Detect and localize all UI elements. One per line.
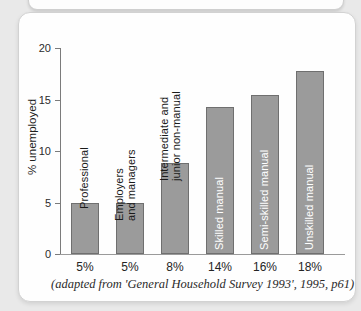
y-tick-label: 15 bbox=[23, 95, 51, 106]
bar-label-line-2: and managers bbox=[125, 149, 137, 221]
bar-label-line-1: Professional bbox=[78, 147, 90, 209]
x-tick-label: 5% bbox=[62, 260, 108, 274]
bar-category-label: Employersand managers bbox=[113, 149, 137, 221]
bar-category-label: Skilled manual bbox=[213, 177, 225, 250]
x-tick-label: 8% bbox=[152, 260, 198, 274]
x-axis-line bbox=[60, 254, 345, 255]
y-tick-label: 20 bbox=[23, 43, 51, 54]
y-tick-mark bbox=[55, 203, 60, 204]
bar-label-line-1: Semi-skilled manual bbox=[258, 150, 270, 250]
y-tick-label: 10 bbox=[23, 146, 51, 157]
y-tick-label: 5 bbox=[23, 198, 51, 209]
x-tick-label: 16% bbox=[242, 260, 288, 274]
y-tick-label: 0 bbox=[23, 249, 51, 260]
bar-category-label: Unskilled manual bbox=[303, 165, 315, 250]
bar-category-label: Semi-skilled manual bbox=[258, 150, 270, 250]
x-tick-label: 14% bbox=[197, 260, 243, 274]
background-card-partial bbox=[28, 0, 344, 10]
bar-label-line-1: Intermediate and bbox=[158, 97, 170, 181]
chart-card: % unemployed 05101520 ProfessionalEmploy… bbox=[18, 12, 356, 302]
bar-label-line-2: junior non-manual bbox=[170, 92, 182, 182]
x-tick-label: 18% bbox=[287, 260, 333, 274]
bar-chart: % unemployed 05101520 ProfessionalEmploy… bbox=[19, 13, 355, 301]
bar-label-line-1: Employers bbox=[113, 168, 125, 221]
y-tick-mark bbox=[55, 100, 60, 101]
bar-label-line-1: Skilled manual bbox=[213, 177, 225, 250]
bar-label-line-1: Unskilled manual bbox=[303, 165, 315, 250]
x-tick-label: 5% bbox=[107, 260, 153, 274]
y-tick-mark bbox=[55, 48, 60, 49]
y-tick-mark bbox=[55, 254, 60, 255]
bar-category-label: Professional bbox=[78, 147, 90, 209]
y-axis-line bbox=[60, 48, 61, 254]
bar[interactable] bbox=[71, 203, 99, 255]
bar-category-label: Intermediate andjunior non-manual bbox=[158, 92, 182, 182]
y-tick-mark bbox=[55, 151, 60, 152]
chart-source-caption: (adapted from 'General Household Survey … bbox=[51, 277, 354, 292]
